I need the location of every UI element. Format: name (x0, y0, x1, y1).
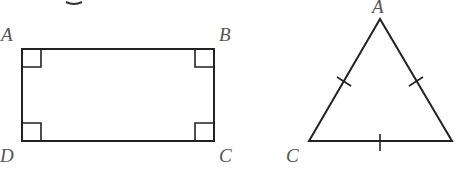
right-angle-marker-b (195, 49, 214, 67)
rectangle (22, 49, 214, 141)
tick-mark-left (337, 77, 351, 86)
tri-label-c: C (286, 145, 299, 166)
geometry-figure: A B C D A C (0, 0, 459, 169)
rect-label-b: B (219, 24, 231, 45)
right-angle-marker-c (195, 123, 214, 141)
cropped-glyph (66, 2, 82, 4)
rect-label-c: C (219, 145, 232, 166)
rect-label-d: D (0, 145, 14, 166)
triangle (309, 19, 452, 151)
tri-label-a: A (370, 0, 384, 17)
rect-label-a: A (0, 24, 13, 45)
right-angle-marker-d (22, 123, 41, 141)
right-angle-marker-a (22, 49, 41, 67)
